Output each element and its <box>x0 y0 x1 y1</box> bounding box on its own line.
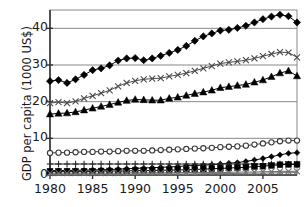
x-tick-label: 1990 <box>113 182 157 196</box>
plot-frame <box>50 10 297 175</box>
x-tick-label: 1985 <box>71 182 115 196</box>
grid-lines <box>50 28 297 138</box>
x-tick-label: 2005 <box>241 182 285 196</box>
x-tick-label: 2000 <box>198 182 242 196</box>
series-open-circle <box>47 138 299 156</box>
plot-area <box>0 0 307 207</box>
x-tick-label: 1980 <box>28 182 72 196</box>
gdp-per-capita-chart: GDP per capita (1000 US$) 010203040 1980… <box>0 0 307 207</box>
data-series <box>46 11 300 176</box>
x-tick-label: 1995 <box>156 182 200 196</box>
